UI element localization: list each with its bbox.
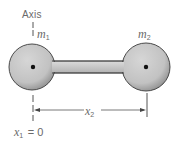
center-dot-m2 [144,65,148,69]
origin-label: x1 = 0 [14,123,43,139]
center-dot-m1 [31,65,35,69]
axis-label: Axis [22,10,42,20]
x2-label: x2 [85,102,94,118]
mass2-label: m2 [138,25,151,41]
mass1-label: m1 [37,25,50,41]
